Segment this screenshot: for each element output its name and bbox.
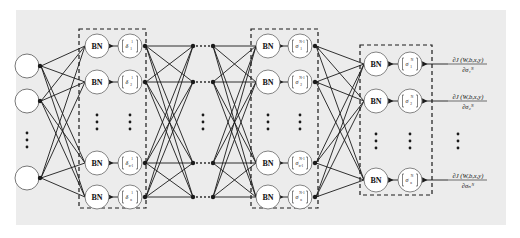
activation-node [288,34,312,58]
input-ellipsis [26,132,29,135]
ellipsis-dot-horizontal [208,45,210,47]
junction-dot [191,80,195,84]
activation-superscript: N-1 [299,40,305,44]
activation-node [398,52,422,76]
input-ellipsis [26,146,29,149]
junction-dot [143,195,147,199]
junction-dot [38,176,42,180]
input-node [15,89,39,113]
gradient-numerator: ∂J (W,b,x,y) [453,93,484,101]
layer-1-ellipsis [96,121,99,124]
layer-1-ellipsis [96,128,99,131]
hidden-layers-ellipsis [202,121,205,124]
bn-label: BN [262,42,273,51]
junction-dot [211,195,215,199]
bn-label: BN [370,176,381,185]
activation-subscript: n [300,198,302,202]
layer-n-ellipsis [375,133,378,136]
activation-subscript: 1 [130,47,132,51]
neural-network-diagram: BNδ11BNδ12BNδ1n-1BNδ1nBNσN-11BNσN-12BNσN… [0,0,520,238]
bn-label: BN [262,159,273,168]
activation-node [118,151,142,175]
bn-label: BN [262,78,273,87]
layer-1-ellipsis [96,114,99,117]
gradient-denominator: ∂σ₂ᴺ [462,103,475,110]
ellipsis-dot-horizontal [208,162,210,164]
activation-subscript: 2 [130,83,132,87]
ellipsis-dot-horizontal [200,81,202,83]
activation-node [118,34,142,58]
bn-label: BN [91,78,102,87]
activation-subscript: 2 [410,102,412,106]
activation-subscript: 1 [300,47,302,51]
junction-dot [191,195,195,199]
activation-superscript: N-1 [299,191,305,195]
activation-node [398,168,422,192]
activation-symbol: δ [126,79,129,85]
activation-superscript: 1 [131,191,133,195]
ellipsis-dot-horizontal [200,45,202,47]
activation-superscript: N-1 [299,157,305,161]
junction-dot [191,161,195,165]
activation-superscript: 1 [131,157,133,161]
activation-subscript: 2 [300,83,302,87]
ellipsis-dot-horizontal [200,162,202,164]
ellipsis-dot-horizontal [208,196,210,198]
outputs-ellipsis [457,147,460,150]
activation-node [288,70,312,94]
layer-n-minus-1-ellipsis [267,114,270,117]
outputs-ellipsis [457,140,460,143]
ellipsis-dot-horizontal [196,81,198,83]
junction-dot [313,80,317,84]
junction-dot [211,161,215,165]
activation-subscript: n [130,198,132,202]
ellipsis-dot-horizontal [196,162,198,164]
activation-subscript: n-1 [299,164,304,168]
activation-subscript: n-1 [129,164,134,168]
activation-subscript: n [410,181,412,185]
activation-node [288,151,312,175]
bn-label: BN [91,42,102,51]
ellipsis-dot-horizontal [204,45,206,47]
ellipsis-dot-horizontal [204,196,206,198]
ellipsis-dot-horizontal [208,81,210,83]
junction-dot [313,44,317,48]
layer-n-minus-1-ellipsis [267,121,270,124]
layer-1-ellipsis [129,121,132,124]
junction-dot [38,64,42,68]
activation-node [118,185,142,209]
input-ellipsis [26,139,29,142]
activation-symbol: δ [126,43,129,49]
ellipsis-dot-horizontal [200,196,202,198]
gradient-denominator: ∂σₙᴺ [462,182,475,189]
gradient-numerator: ∂J (W,b,x,y) [453,172,484,180]
input-node [15,166,39,190]
hidden-layers-ellipsis [202,114,205,117]
activation-superscript: 1 [131,76,133,80]
junction-dot [143,44,147,48]
junction-dot [143,161,147,165]
layer-n-minus-1-ellipsis [299,114,302,117]
junction-dot [38,99,42,103]
ellipsis-dot-horizontal [204,162,206,164]
activation-superscript: 1 [131,40,133,44]
layer-n-ellipsis [409,140,412,143]
layer-1-ellipsis [129,128,132,131]
layer-n-ellipsis [409,147,412,150]
layer-n-ellipsis [375,140,378,143]
junction-dot [313,195,317,199]
outputs-ellipsis [457,133,460,136]
junction-dot [191,44,195,48]
ellipsis-dot-horizontal [196,196,198,198]
junction-dot [211,44,215,48]
bn-label: BN [370,60,381,69]
activation-symbol: δ [126,194,129,200]
layer-n-minus-1-ellipsis [299,121,302,124]
activation-node [398,89,422,113]
activation-subscript: 1 [410,65,412,69]
bn-label: BN [91,159,102,168]
junction-dot [143,80,147,84]
gradient-numerator: ∂J (W,b,x,y) [453,56,484,64]
activation-node [288,185,312,209]
layer-n-ellipsis [409,133,412,136]
